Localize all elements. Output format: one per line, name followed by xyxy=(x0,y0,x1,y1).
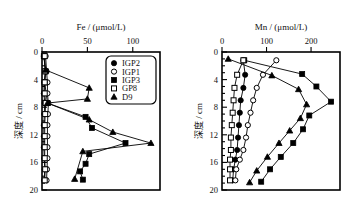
svg-text:0: 0 xyxy=(220,36,224,46)
datapoint-GP8 xyxy=(241,58,246,63)
datapoint-GP8 xyxy=(43,112,48,117)
datapoint-IGP1 xyxy=(254,85,259,90)
svg-text:16: 16 xyxy=(30,157,39,167)
legend-label: D9 xyxy=(122,92,132,102)
datapoint-IGP2 xyxy=(243,72,248,77)
datapoint-IGP2 xyxy=(238,98,243,103)
x-axis-title: Mn / (μmol/L) xyxy=(255,22,307,32)
datapoint-IGP3 xyxy=(291,141,296,146)
svg-text:8: 8 xyxy=(214,102,218,112)
datapoint-D9 xyxy=(86,85,92,91)
svg-text:20: 20 xyxy=(210,185,219,195)
datapoint-IGP1 xyxy=(234,167,239,172)
datapoint-IGP3 xyxy=(87,152,92,157)
x-axis-ticks: 050100 xyxy=(40,36,139,52)
datapoint-D9 xyxy=(304,101,310,107)
mn-plot-svg: Mn / (μmol/L)0100200048121620深度 / cm xyxy=(180,0,360,208)
datapoint-D9 xyxy=(297,115,303,121)
datapoint-IGP1 xyxy=(251,98,256,103)
svg-text:12: 12 xyxy=(30,130,39,140)
datapoint-D9 xyxy=(247,179,253,185)
datapoint-GP8 xyxy=(42,178,47,183)
datapoint-IGP2 xyxy=(236,123,241,128)
datapoint-IGP3 xyxy=(123,141,128,146)
datapoint-GP8 xyxy=(231,98,236,103)
datapoint-GP8 xyxy=(228,178,233,183)
svg-text:4: 4 xyxy=(214,75,219,85)
datapoint-D9 xyxy=(225,56,231,62)
datapoint-GP8 xyxy=(42,54,47,59)
datapoint-GP8 xyxy=(43,167,48,172)
legend-marker-IGP2 xyxy=(111,61,116,66)
datapoint-IGP2 xyxy=(241,85,246,90)
datapoint-IGP1 xyxy=(243,135,248,140)
datapoint-D9 xyxy=(269,72,275,78)
datapoint-GP8 xyxy=(42,123,47,128)
datapoint-GP8 xyxy=(228,135,233,140)
y-axis-title: 深度 / cm xyxy=(13,103,24,139)
legend: IGP2IGP1IGP3GP8D9 xyxy=(106,56,156,104)
svg-text:8: 8 xyxy=(34,102,38,112)
legend-marker-IGP3 xyxy=(112,78,117,83)
datapoint-D9 xyxy=(84,96,90,102)
datapoint-GP8 xyxy=(228,167,233,172)
datapoint-IGP1 xyxy=(274,58,279,63)
svg-text:0: 0 xyxy=(40,36,44,46)
datapoint-IGP3 xyxy=(83,161,88,166)
datapoint-GP8 xyxy=(229,123,234,128)
datapoint-GP8 xyxy=(42,145,47,150)
svg-text:100: 100 xyxy=(260,36,273,46)
datapoint-IGP3 xyxy=(314,84,319,89)
datapoint-GP8 xyxy=(42,134,47,139)
datapoint-GP8 xyxy=(228,147,233,152)
datapoint-IGP1 xyxy=(248,110,253,115)
datapoint-D9 xyxy=(295,86,301,92)
datapoint-IGP2 xyxy=(235,135,240,140)
datapoint-IGP2 xyxy=(237,110,242,115)
svg-text:16: 16 xyxy=(210,157,219,167)
datapoint-IGP1 xyxy=(233,178,238,183)
datapoint-IGP1 xyxy=(245,123,250,128)
datapoint-IGP2 xyxy=(235,147,240,152)
legend-marker-GP8 xyxy=(112,86,117,91)
svg-text:4: 4 xyxy=(34,75,39,85)
datapoint-IGP3 xyxy=(268,167,273,172)
chart-panel-mn: Mn / (μmol/L)0100200048121620深度 / cm xyxy=(180,0,360,208)
fe-plot-svg: Fe / (μmol/L)050100048121620深度 / cmIGP2I… xyxy=(0,0,180,208)
datapoint-IGP3 xyxy=(300,72,305,77)
datapoint-GP8 xyxy=(42,91,47,96)
svg-text:50: 50 xyxy=(83,36,92,46)
datapoint-GP8 xyxy=(230,110,235,115)
datapoint-D9 xyxy=(72,176,78,182)
datapoint-IGP3 xyxy=(78,169,83,174)
datapoint-IGP3 xyxy=(80,177,85,182)
svg-text:0: 0 xyxy=(34,47,38,57)
datapoint-GP8 xyxy=(42,80,47,85)
datapoint-IGP3 xyxy=(89,125,94,130)
datapoint-IGP3 xyxy=(301,127,306,132)
legend-marker-IGP1 xyxy=(111,69,116,74)
datapoint-GP8 xyxy=(232,85,237,90)
datapoint-GP8 xyxy=(42,156,47,161)
x-axis-title: Fe / (μmol/L) xyxy=(77,22,126,32)
datapoint-IGP3 xyxy=(278,154,283,159)
datapoint-IGP1 xyxy=(237,157,242,162)
svg-text:200: 200 xyxy=(305,36,318,46)
figure-root: Fe / (μmol/L)050100048121620深度 / cmIGP2I… xyxy=(0,0,360,208)
svg-text:20: 20 xyxy=(30,185,39,195)
datapoint-IGP3 xyxy=(307,113,312,118)
series-IGP3 xyxy=(242,58,334,184)
svg-text:100: 100 xyxy=(126,36,139,46)
svg-text:12: 12 xyxy=(210,130,219,140)
chart-panel-fe: Fe / (μmol/L)050100048121620深度 / cmIGP2I… xyxy=(0,0,180,208)
datapoint-IGP3 xyxy=(259,179,264,184)
datapoint-D9 xyxy=(110,129,116,135)
datapoint-IGP3 xyxy=(329,99,334,104)
datapoint-GP8 xyxy=(228,157,233,162)
x-axis-ticks: 0100200 xyxy=(220,36,318,52)
svg-text:0: 0 xyxy=(214,47,218,57)
y-axis-title: 深度 / cm xyxy=(193,103,204,139)
y-axis-ticks: 048121620 xyxy=(210,47,228,195)
datapoint-GP8 xyxy=(235,72,240,77)
datapoint-IGP1 xyxy=(241,147,246,152)
